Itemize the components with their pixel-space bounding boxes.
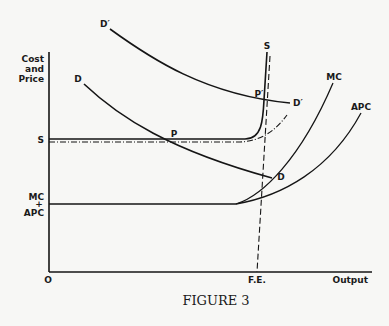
y-axis-label-line3: Price (18, 74, 44, 84)
mc-curve (236, 83, 333, 204)
s-level-label: S (38, 135, 44, 145)
figure-caption: FIGURE 3 (182, 293, 249, 308)
demand-label-start: D (74, 74, 81, 84)
origin-label: O (44, 275, 52, 285)
demand-curve (84, 84, 272, 178)
equilibrium-p-label: P (171, 129, 178, 139)
demand-shifted-label-end: D′ (293, 98, 303, 108)
full-employment-label: F.E. (248, 275, 266, 285)
demand-label-end: D (277, 172, 284, 182)
apc-label: APC (351, 102, 372, 112)
x-axis-label: Output (332, 275, 368, 285)
y-axis-label-line2: and (25, 64, 44, 74)
supply-curve (49, 52, 267, 139)
demand-shifted-label-start: D′ (100, 19, 110, 29)
mc-apc-label-line3: APC (24, 208, 45, 218)
equilibrium-p-shifted-label: P′ (255, 89, 265, 99)
economic-diagram: Cost and Price O Output F.E. S MC + APC … (0, 0, 389, 326)
supply-label: S (264, 41, 270, 51)
apc-curve (236, 113, 361, 204)
mc-label: MC (326, 72, 342, 82)
y-axis-label-line1: Cost (22, 54, 45, 64)
